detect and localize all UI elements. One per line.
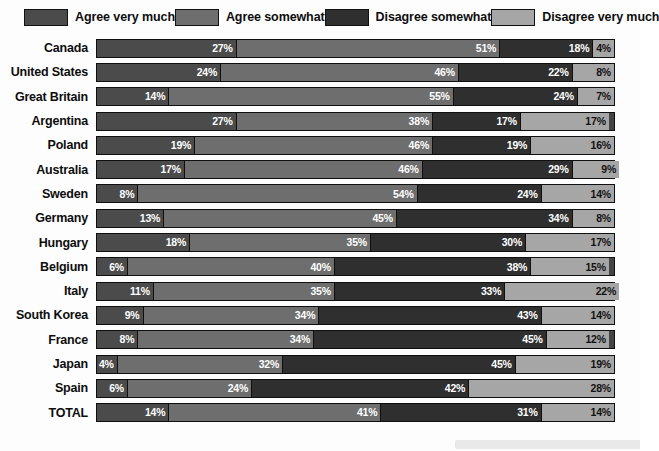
bar-segment[interactable]: 24% [418,185,542,202]
bar-segment[interactable]: 18% [500,40,593,57]
bar-segment[interactable]: 55% [169,88,453,105]
legend-swatch-icon [24,9,68,26]
row-label: Sweden [0,187,96,201]
bar-segment[interactable]: 24% [97,64,221,81]
stacked-bar: 27%38%17%17% [96,112,615,131]
bar-segment[interactable]: 17% [433,113,521,130]
stacked-bar: 11%35%33%22% [96,282,615,301]
bar-segment[interactable]: 14% [97,88,169,105]
stacked-bar: 8%54%24%14% [96,184,615,203]
stacked-bar: 13%45%34%8% [96,209,615,228]
bar-segment[interactable]: 14% [542,307,614,324]
row-label: Poland [0,138,96,152]
legend-item-0[interactable]: Agree very much [24,9,175,26]
bar-segment[interactable]: 15% [531,258,609,275]
bar-segment[interactable]: 11% [97,283,154,300]
chart-row: Poland19%46%19%16% [0,133,640,157]
bar-segment[interactable]: 17% [521,113,609,130]
bar-segment[interactable]: 33% [335,283,506,300]
bar-segment[interactable]: 19% [97,137,195,154]
bar-segment[interactable]: 8% [573,64,614,81]
bar-segment[interactable]: 22% [459,64,573,81]
bar-segment[interactable]: 34% [397,210,573,227]
bar-segment[interactable]: 8% [97,331,138,348]
bar-segment[interactable]: 32% [118,356,283,373]
bar-segment[interactable]: 46% [195,137,433,154]
bar-segment[interactable]: 27% [97,113,237,130]
bar-segment[interactable]: 28% [469,380,614,397]
row-label: South Korea [0,308,96,322]
chart-rows: Canada27%51%18%4%United States24%46%22%8… [0,36,640,425]
chart-row: Canada27%51%18%4% [0,36,640,60]
bar-segment[interactable]: 9% [97,307,144,324]
bar-segment[interactable]: 24% [454,88,578,105]
stacked-bar: 19%46%19%16% [96,136,615,155]
chart-row: Belgium6%40%38%15% [0,255,640,279]
chart-row: Japan4%32%45%19% [0,352,640,376]
row-label: Germany [0,211,96,225]
stacked-bar: 9%34%43%14% [96,306,615,325]
bar-segment[interactable]: 19% [433,137,531,154]
bar-segment[interactable]: 34% [138,331,314,348]
legend-swatch-icon [491,9,535,26]
chart-legend: Agree very muchAgree somewhatDisagree so… [0,0,640,34]
row-label: Argentina [0,114,96,128]
bar-segment[interactable]: 6% [97,380,128,397]
bar-segment[interactable]: 46% [185,161,423,178]
bar-segment[interactable]: 24% [128,380,252,397]
chart-row: Great Britain14%55%24%7% [0,85,640,109]
bar-segment[interactable]: 46% [221,64,459,81]
bar-segment[interactable]: 18% [97,234,190,251]
row-label: Canada [0,41,96,55]
bar-segment[interactable]: 17% [97,161,185,178]
bar-segment[interactable]: 7% [578,88,614,105]
bar-segment[interactable]: 13% [97,210,164,227]
bar-segment[interactable]: 14% [542,404,614,421]
bar-segment[interactable]: 38% [335,258,531,275]
bar-segment[interactable]: 12% [547,331,609,348]
bar-segment[interactable]: 6% [97,258,128,275]
stacked-bar: 14%55%24%7% [96,87,615,106]
bar-segment[interactable]: 40% [128,258,335,275]
bar-segment[interactable]: 17% [526,234,614,251]
row-label: Belgium [0,260,96,274]
bar-segment[interactable]: 22% [505,283,619,300]
bar-segment[interactable]: 38% [237,113,433,130]
legend-item-3[interactable]: Disagree very much [491,9,659,26]
bar-segment[interactable]: 4% [593,40,614,57]
bar-segment[interactable]: 51% [237,40,501,57]
bar-segment[interactable]: 35% [190,234,371,251]
bar-segment[interactable]: 42% [252,380,469,397]
bar-segment[interactable]: 4% [97,356,118,373]
legend-item-1[interactable]: Agree somewhat [175,9,325,26]
bar-segment[interactable]: 35% [154,283,335,300]
bar-segment[interactable]: 9% [573,161,620,178]
bar-segment[interactable]: 8% [97,185,138,202]
chart-row: United States24%46%22%8% [0,60,640,84]
legend-item-2[interactable]: Disagree somewhat [325,9,492,26]
legend-item-label: Disagree very much [542,10,659,24]
row-label: Italy [0,284,96,298]
bar-segment[interactable]: 29% [423,161,573,178]
chart-row: South Korea9%34%43%14% [0,303,640,327]
bar-segment[interactable]: 27% [97,40,237,57]
bar-segment[interactable]: 45% [164,210,397,227]
bar-segment[interactable]: 8% [573,210,614,227]
bar-segment[interactable]: 34% [144,307,320,324]
bar-segment[interactable]: 45% [314,331,547,348]
bar-segment[interactable]: 14% [542,185,614,202]
bar-segment[interactable]: 41% [169,404,381,421]
chart-row: France8%34%45%12% [0,328,640,352]
stacked-bar: 24%46%22%8% [96,63,615,82]
bar-segment[interactable]: 16% [531,137,614,154]
stacked-bar: 14%41%31%14% [96,403,615,422]
bar-segment[interactable]: 14% [97,404,169,421]
bar-segment[interactable]: 43% [319,307,541,324]
bar-segment[interactable]: 54% [138,185,417,202]
bar-segment[interactable]: 45% [283,356,516,373]
bar-segment[interactable]: 30% [371,234,526,251]
bar-segment[interactable]: 31% [381,404,541,421]
bar-segment[interactable]: 19% [516,356,614,373]
legend-item-label: Disagree somewhat [376,10,492,24]
